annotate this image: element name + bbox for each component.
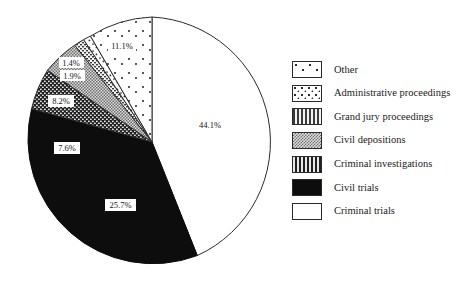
legend-item-civil-depositions[interactable]: Civil depositions: [292, 129, 464, 153]
pie-slices: [28, 17, 270, 264]
pie-label-civil-trials: 25.7%: [105, 199, 136, 211]
pie-label-civil-trials-text: 25.7%: [110, 200, 132, 210]
legend-label-administrative-proceedings: Administrative proceedings: [334, 88, 450, 99]
legend-item-administrative-proceedings[interactable]: Administrative proceedings: [292, 82, 464, 106]
pie-label-administrative-text: 1.4%: [62, 58, 80, 68]
legend-label-grand-jury-proceedings: Grand jury proceedings: [334, 112, 433, 123]
legend-item-civil-trials[interactable]: Civil trials: [292, 176, 464, 200]
legend-label-civil-trials: Civil trials: [334, 183, 379, 194]
pie-label-criminal-trials: 44.1%: [199, 120, 221, 130]
legend: Other Administrative proceedings Grand j…: [292, 58, 464, 223]
pie-label-administrative: 1.4%: [59, 57, 84, 68]
legend-item-grand-jury-proceedings[interactable]: Grand jury proceedings: [292, 105, 464, 129]
legend-item-criminal-trials[interactable]: Criminal trials: [292, 200, 464, 224]
legend-swatch-civil-trials: [292, 179, 322, 196]
pie-chart-figure: 44.1% 25.7% 7.6% 8.2% 1.9% 1.4%: [0, 0, 466, 283]
legend-label-civil-depositions: Civil depositions: [334, 135, 405, 146]
pie-chart-svg: 44.1% 25.7% 7.6% 8.2% 1.9% 1.4%: [0, 0, 292, 283]
legend-item-other[interactable]: Other: [292, 58, 464, 82]
legend-swatch-other: [292, 61, 322, 78]
pie-label-other: 11.1%: [108, 40, 136, 52]
legend-item-criminal-investigations[interactable]: Criminal investigations: [292, 152, 464, 176]
pie-label-civil-depositions-text: 8.2%: [52, 96, 70, 106]
legend-label-criminal-investigations: Criminal investigations: [334, 159, 432, 170]
pie-label-criminal-investigations-text: 7.6%: [58, 143, 76, 153]
pie-label-criminal-investigations: 7.6%: [54, 142, 80, 154]
pie-label-civil-depositions: 8.2%: [48, 95, 74, 107]
legend-label-other: Other: [334, 65, 358, 76]
pie-label-criminal-trials-text: 44.1%: [199, 120, 221, 130]
legend-swatch-grand-jury-proceedings: [292, 108, 322, 125]
legend-swatch-criminal-trials: [292, 203, 322, 220]
pie-label-grand-jury-text: 1.9%: [63, 71, 81, 81]
legend-swatch-civil-depositions: [292, 132, 322, 149]
pie-label-grand-jury: 1.9%: [60, 70, 85, 81]
pie-label-other-text: 11.1%: [111, 41, 133, 51]
legend-swatch-administrative-proceedings: [292, 85, 322, 102]
legend-swatch-criminal-investigations: [292, 156, 322, 173]
legend-label-criminal-trials: Criminal trials: [334, 206, 395, 217]
